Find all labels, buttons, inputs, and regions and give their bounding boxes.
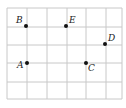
point-label: A <box>16 60 24 70</box>
point-d: D <box>103 33 115 46</box>
point-b: B <box>15 15 28 28</box>
point-label: E <box>68 15 76 25</box>
point-dot <box>25 61 29 65</box>
point-dot <box>24 24 28 28</box>
point-e: E <box>64 15 76 28</box>
point-dot <box>64 24 68 28</box>
grid-diagram: BEDAC <box>0 0 126 108</box>
point-label: D <box>107 33 115 43</box>
point-dot <box>103 42 107 46</box>
points-layer: BEDAC <box>15 15 115 73</box>
point-label: B <box>15 15 23 25</box>
grid-lines <box>7 8 122 99</box>
point-label: C <box>88 63 95 73</box>
